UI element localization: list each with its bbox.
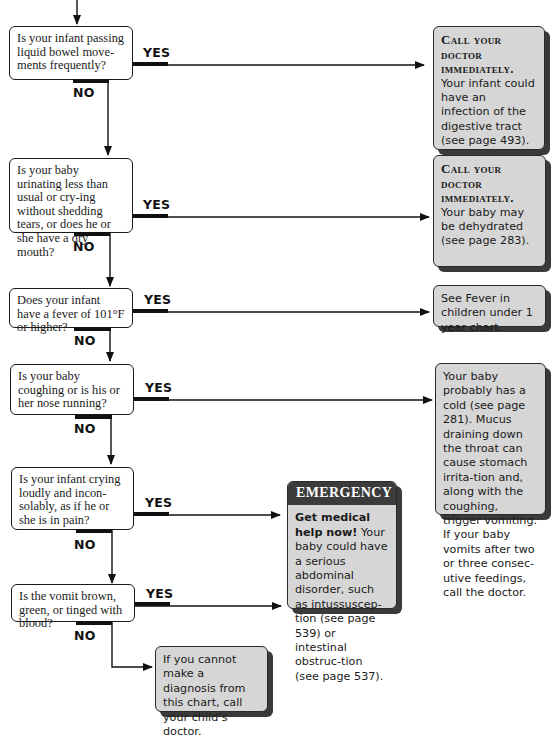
answer-heading: Call your doctor immediately. xyxy=(441,162,538,206)
no-label: NO xyxy=(74,537,96,552)
yes-label: YES xyxy=(143,197,170,212)
question-box-coughing: Is your baby coughing or is his or her n… xyxy=(10,364,134,415)
no-label: NO xyxy=(74,333,96,348)
answer-text: Your baby probably has a cold (see page … xyxy=(443,370,537,599)
answer-box-emergency: EMERGENCY Get medical help now! Your bab… xyxy=(287,481,397,609)
question-text: Is your infant passing liquid bowel move… xyxy=(17,31,124,72)
yes-bar xyxy=(134,397,169,401)
answer-text: Your infant could have an infection of t… xyxy=(441,77,535,148)
yes-label: YES xyxy=(146,586,173,601)
question-text: Is your infant crying loudly and incon-s… xyxy=(19,472,121,527)
yes-bar xyxy=(133,62,168,66)
answer-text: If you cannot make a diagnosis from this… xyxy=(163,653,245,738)
no-label: NO xyxy=(74,421,96,436)
no-bar xyxy=(73,79,109,83)
no-label: NO xyxy=(74,628,96,643)
no-label: NO xyxy=(73,85,95,100)
answer-box-see-fever-chart: See Fever in children under 1 year chart… xyxy=(433,285,546,327)
no-bar xyxy=(74,327,111,331)
no-bar xyxy=(76,529,112,533)
no-bar xyxy=(74,232,110,236)
answer-box-digestive-infection: Call your doctor immediately. Your infan… xyxy=(433,26,545,150)
yes-bar xyxy=(135,602,170,606)
yes-label: YES xyxy=(143,45,170,60)
no-bar xyxy=(76,621,112,625)
yes-label: YES xyxy=(144,292,171,307)
question-box-crying: Is your infant crying loudly and incon-s… xyxy=(11,467,134,530)
question-box-vomit-color: Is the vomit brown, green, or tinged wit… xyxy=(11,584,135,622)
yes-label: YES xyxy=(145,380,172,395)
yes-bar xyxy=(134,512,169,516)
answer-text: See Fever in children under 1 year chart… xyxy=(441,292,533,334)
yes-bar xyxy=(133,214,168,218)
answer-box-cold: Your baby probably has a cold (see page … xyxy=(435,363,546,515)
question-text: Is your baby coughing or is his or her n… xyxy=(18,369,120,410)
answer-box-dehydrated: Call your doctor immediately. Your baby … xyxy=(433,155,546,267)
yes-label: YES xyxy=(145,495,172,510)
answer-text: Your baby could have a serious abdominal… xyxy=(295,526,388,683)
no-bar xyxy=(75,415,112,419)
question-box-liquid-bowel: Is your infant passing liquid bowel move… xyxy=(9,26,133,80)
question-text: Is your baby urinating less than usual o… xyxy=(17,163,111,259)
answer-heading: Call your doctor immediately. xyxy=(441,33,537,77)
emergency-heading: EMERGENCY xyxy=(288,482,396,505)
yes-bar xyxy=(133,309,168,313)
question-box-urinating-less: Is your baby urinating less than usual o… xyxy=(9,158,133,233)
answer-text: Your baby may be dehydrated (see page 28… xyxy=(441,206,529,248)
question-box-fever: Does your infant have a fever of 101°F o… xyxy=(9,288,133,328)
no-label: NO xyxy=(73,239,95,254)
answer-box-call-doctor: If you cannot make a diagnosis from this… xyxy=(155,646,268,712)
